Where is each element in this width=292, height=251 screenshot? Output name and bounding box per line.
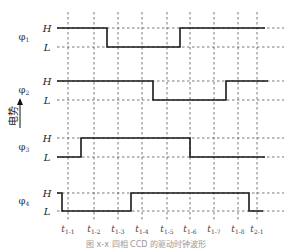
signal-waveforms — [57, 28, 268, 211]
y-axis-label: 电势 — [7, 106, 19, 126]
y-axis: 电势 — [7, 98, 23, 128]
level-low-label: L — [43, 42, 51, 53]
time-tick-label: t1-3 — [111, 224, 124, 235]
time-tick-label: t1-7 — [207, 224, 220, 235]
level-high-label: H — [42, 23, 52, 34]
signal-labels: HLφ1HLφ2HLφ3HLφ4 — [19, 23, 52, 217]
level-high-label: H — [42, 76, 52, 87]
arrow-head-icon — [17, 98, 23, 105]
timing-diagram: HLφ1HLφ2HLφ3HLφ4 t1-1t1-2t1-3t1-4t1-5t1-… — [0, 0, 292, 251]
signal-phi4-label: φ4 — [19, 195, 30, 207]
level-gridlines — [57, 28, 284, 211]
time-tick-label: t2-1 — [250, 224, 263, 235]
time-gridlines — [68, 12, 257, 220]
time-tick-label: t1-6 — [183, 224, 196, 235]
time-tick-label: t1-4 — [135, 224, 148, 235]
figure-caption: 图 x-x 四相 CCD 的驱动时钟波形 — [0, 238, 292, 249]
level-high-label: H — [42, 133, 52, 144]
signal-phi2-waveform — [57, 81, 268, 100]
signal-phi1-label: φ1 — [19, 31, 30, 43]
signal-phi3-waveform — [57, 138, 265, 157]
signal-phi2-label: φ2 — [19, 84, 30, 96]
signal-phi1-waveform — [57, 28, 265, 47]
level-high-label: H — [42, 188, 52, 199]
time-tick-label: t1-5 — [160, 224, 173, 235]
level-low-label: L — [43, 95, 51, 106]
signal-phi4-waveform — [57, 193, 263, 211]
time-tick-label: t1-1 — [61, 224, 74, 235]
level-low-label: L — [43, 152, 51, 163]
time-tick-label: t1-8 — [231, 224, 244, 235]
signal-phi3-label: φ3 — [19, 141, 30, 153]
time-tick-label: t1-2 — [87, 224, 100, 235]
level-low-label: L — [43, 206, 51, 217]
time-tick-labels: t1-1t1-2t1-3t1-4t1-5t1-6t1-7t1-8t2-1 — [61, 224, 263, 235]
